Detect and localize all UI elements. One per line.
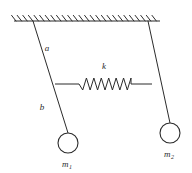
ceiling-hatch-marks — [12, 15, 157, 21]
ceiling-hatch-tick — [146, 15, 150, 21]
mass-label-m1-base: m — [62, 159, 69, 169]
left-pendulum: a b m1 — [33, 21, 78, 170]
spring-coil — [55, 78, 152, 90]
ceiling-hatch-tick — [130, 15, 134, 21]
ceiling-hatch-tick — [79, 15, 83, 21]
ceiling-hatch-tick — [12, 15, 16, 21]
ceiling-hatch-tick — [90, 15, 94, 21]
ceiling-hatch-tick — [85, 15, 89, 21]
mass-label-m2: m2 — [164, 149, 174, 160]
ceiling-hatch-tick — [34, 15, 38, 21]
segment-label-b: b — [40, 102, 45, 112]
mass-label-m2-subscript: 2 — [171, 154, 174, 160]
left-pendulum-string — [33, 21, 68, 133]
right-pendulum: m2 — [148, 21, 180, 160]
ceiling-hatch-tick — [62, 15, 66, 21]
ceiling-hatch-tick — [28, 15, 32, 21]
ceiling-hatch-tick — [141, 15, 145, 21]
ceiling-support — [12, 15, 160, 21]
ceiling-hatch-tick — [57, 15, 61, 21]
coupling-spring: k — [55, 61, 152, 90]
mass-label-m1: m1 — [62, 159, 72, 170]
segment-label-a: a — [45, 43, 50, 53]
ceiling-hatch-tick — [96, 15, 100, 21]
mass-label-m1-subscript: 1 — [69, 164, 72, 170]
right-pendulum-string — [148, 21, 170, 123]
ceiling-hatch-tick — [152, 15, 156, 21]
physics-diagram: a b m1 m2 k — [0, 0, 192, 173]
ceiling-hatch-tick — [135, 15, 139, 21]
ceiling-hatch-tick — [45, 15, 49, 21]
ceiling-hatch-tick — [40, 15, 44, 21]
mass-bob-m2 — [160, 123, 180, 143]
ceiling-hatch-tick — [107, 15, 111, 21]
diagram-canvas: a b m1 m2 k — [0, 0, 192, 173]
ceiling-hatch-tick — [73, 15, 77, 21]
ceiling-hatch-tick — [101, 15, 105, 21]
ceiling-hatch-tick — [68, 15, 72, 21]
ceiling-hatch-tick — [113, 15, 117, 21]
spring-constant-label-k: k — [102, 61, 107, 71]
ceiling-hatch-tick — [51, 15, 55, 21]
ceiling-hatch-tick — [23, 15, 27, 21]
ceiling-hatch-tick — [118, 15, 122, 21]
ceiling-hatch-tick — [124, 15, 128, 21]
mass-label-m2-base: m — [164, 149, 171, 159]
mass-bob-m1 — [58, 133, 78, 153]
ceiling-hatch-tick — [17, 15, 21, 21]
